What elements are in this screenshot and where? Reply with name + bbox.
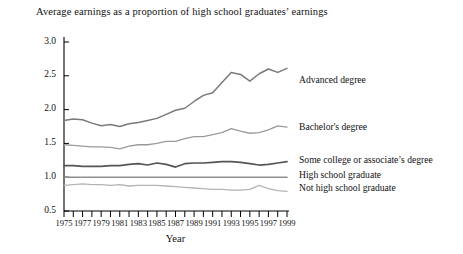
series-label-3: High school graduate	[299, 169, 381, 180]
x-axis-title: Year	[136, 233, 216, 244]
series-lines-layer	[64, 68, 287, 191]
series-line-0	[64, 68, 287, 126]
y-axis-tick-label: 1.0	[30, 171, 56, 181]
plot-area	[0, 0, 463, 254]
y-axis-tick-label: 1.5	[30, 137, 56, 147]
axes-layer	[64, 37, 289, 217]
y-axis-tick-label: 2.5	[30, 69, 56, 79]
series-line-4	[64, 184, 287, 191]
series-line-2	[64, 162, 287, 167]
series-label-1: Bachelor's degree	[299, 121, 367, 132]
y-axis-tick-label: 0.5	[30, 205, 56, 215]
series-line-1	[64, 126, 287, 149]
series-label-0: Advanced degree	[299, 74, 366, 85]
chart-container: Average earnings as a proportion of high…	[0, 0, 463, 254]
y-axis-tick-label: 3.0	[30, 36, 56, 46]
x-axis-tick-label: 1999	[272, 218, 302, 228]
series-label-4: Not high school graduate	[299, 182, 396, 193]
series-label-2: Some college or associate’s degree	[299, 154, 433, 165]
y-axis-tick-label: 2.0	[30, 103, 56, 113]
